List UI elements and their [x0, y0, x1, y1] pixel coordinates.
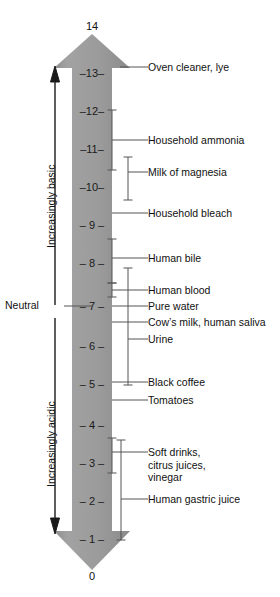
scale-tick-1: – 1 – [70, 534, 114, 545]
label-soft-drinks-line1: Soft drinks, [148, 446, 206, 459]
label-milk-of-magnesia: Milk of magnesia [148, 166, 227, 179]
ph-scale-figure: 14 –13– –12– –11– –10– – 9 – – 8 – – 7 –… [0, 0, 280, 597]
scale-tick-3: – 3 – [70, 458, 114, 469]
scale-top-value: 14 [70, 21, 114, 32]
scale-tick-9: – 9 – [70, 220, 114, 231]
label-pure-water: Pure water [148, 300, 199, 313]
label-black-coffee: Black coffee [148, 376, 205, 389]
increasingly-acidic-label: Increasingly acidic [46, 401, 57, 487]
neutral-label: Neutral [5, 300, 39, 311]
scale-tick-10: –10– [70, 182, 114, 193]
ph-scale-graphic [0, 0, 280, 597]
scale-tick-2: – 2 – [70, 496, 114, 507]
label-soft-drinks-line3: vinegar [148, 471, 206, 484]
label-oven-cleaner-lye: Oven cleaner, lye [148, 61, 229, 74]
scale-tick-7: – 7 – [70, 301, 114, 312]
scale-tick-5: – 5 – [70, 379, 114, 390]
label-cows-milk-saliva: Cow’s milk, human saliva [148, 316, 266, 329]
scale-tick-11: –11– [70, 144, 114, 155]
bracket-human-gastric-juice [117, 440, 149, 540]
scale-tick-4: – 4 – [70, 420, 114, 431]
label-urine: Urine [148, 333, 173, 346]
scale-bottom-value: 0 [70, 571, 114, 582]
label-soft-drinks: Soft drinks, citrus juices, vinegar [148, 446, 206, 484]
label-soft-drinks-line2: citrus juices, [148, 459, 206, 472]
scale-tick-12: –12– [70, 106, 114, 117]
label-human-gastric-juice: Human gastric juice [148, 493, 240, 506]
scale-tick-6: – 6 – [70, 341, 114, 352]
scale-tick-8: – 8 – [70, 258, 114, 269]
label-human-blood: Human blood [148, 284, 210, 297]
scale-tick-13: –13– [70, 68, 114, 79]
label-tomatoes: Tomatoes [148, 394, 194, 407]
label-household-bleach: Household bleach [148, 207, 232, 220]
bracket-milk-of-magnesia [124, 157, 149, 200]
bracket-urine [124, 268, 149, 385]
label-human-bile: Human bile [148, 252, 201, 265]
increasingly-basic-label: Increasingly basic [46, 165, 57, 248]
label-household-ammonia: Household ammonia [148, 134, 244, 147]
